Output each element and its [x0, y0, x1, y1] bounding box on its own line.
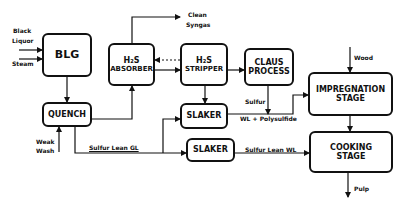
wood-label: Wood: [354, 55, 373, 61]
quench-box: QUENCH: [42, 102, 92, 127]
gl-to-slaker1-arrow: [163, 119, 180, 153]
blg-label: BLG: [55, 49, 79, 62]
stripper-line2: STRIPPER: [185, 65, 223, 73]
blg-box: BLG: [42, 33, 92, 77]
cooking-line1: COOKING: [330, 143, 372, 152]
wl-polysulfide-label: WL + Polysulfide: [240, 116, 297, 122]
quench-to-absorber-arrow: [92, 86, 132, 119]
claus-line1: CLAUS: [254, 58, 283, 67]
weak-wash-label-2: Wash: [36, 148, 54, 154]
clean-syngas-label-1: Clean: [188, 12, 207, 18]
slaker2-label: SLAKER: [193, 145, 228, 154]
black-liquor-label-2: Liquor: [12, 38, 34, 44]
h2s-absorber-box: H₂S ABSORBER: [108, 43, 155, 86]
absorber-line2: ABSORBER: [110, 65, 153, 73]
steam-label: Steam: [12, 61, 34, 67]
absorber-line1: H₂S: [124, 56, 140, 65]
h2s-stripper-box: H₂S STRIPPER: [180, 43, 228, 86]
claus-process-box: CLAUS PROCESS: [244, 48, 294, 86]
clean-syngas-label-2: Syngas: [186, 22, 210, 28]
claus-line2: PROCESS: [248, 67, 289, 76]
impregnation-line1: IMPREGNATION: [316, 85, 385, 94]
weak-wash-label-1: Weak: [36, 139, 55, 145]
cooking-line2: STAGE: [337, 152, 366, 161]
sulfur-lean-wl-label: Sulfur Lean WL: [245, 147, 296, 153]
slaker1-label: SLAKER: [187, 111, 222, 120]
cooking-stage-box: COOKING STAGE: [309, 131, 393, 173]
impregnation-line2: STAGE: [336, 94, 365, 103]
slaker-box-2: SLAKER: [186, 138, 235, 162]
quench-label: QUENCH: [48, 110, 86, 119]
pulp-label: Pulp: [354, 186, 369, 192]
sulfur-label: Sulfur: [245, 99, 266, 105]
impregnation-stage-box: IMPREGNATION STAGE: [308, 72, 393, 116]
stripper-line1: H₂S: [196, 56, 212, 65]
sulfur-lean-gl-label: Sulfur Lean GL: [89, 145, 139, 151]
slaker-box-1: SLAKER: [180, 103, 228, 129]
black-liquor-label-1: Black: [13, 28, 31, 34]
clean-syngas-arrow: [132, 17, 180, 43]
